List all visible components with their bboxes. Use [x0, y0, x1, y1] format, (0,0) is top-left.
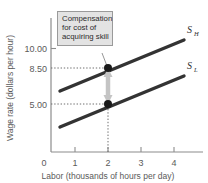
y-tick-label-850: 8.50 [29, 64, 47, 74]
x-axis-title: Labor (thousands of hours per day) [42, 171, 175, 181]
compensation-callout-text: Compensation for cost of acquiring skill [62, 14, 109, 42]
point-low-skilled-equilibrium [104, 100, 112, 108]
x-tick-label-2: 2 [105, 158, 110, 168]
curve-label-low-skilled-text: S [187, 60, 192, 71]
curve-label-high-skilled: S H [187, 24, 199, 37]
x-tick-label-3: 3 [138, 158, 143, 168]
wage-rate-chart: 10.00 8.50 5.00 0 1 2 3 4 Labor (thousan… [0, 0, 208, 183]
x-tick-label-1: 1 [72, 158, 77, 168]
y-tick-label-500: 5.00 [29, 100, 47, 110]
curve-label-low-skilled-subscript: L [193, 66, 198, 73]
y-axis-title: Wage rate (dollars per hour) [5, 35, 15, 141]
compensation-callout-box: Compensation for cost of acquiring skill [57, 11, 113, 46]
curve-label-low-skilled: S L [187, 60, 198, 73]
x-tick-label-4: 4 [171, 158, 176, 168]
point-high-skilled-equilibrium [104, 64, 112, 72]
callout-pointer-line [102, 53, 107, 66]
x-tick-label-0: 0 [41, 158, 46, 168]
y-tick-label-10: 10.00 [24, 44, 47, 54]
curve-label-high-skilled-text: S [187, 24, 192, 35]
curve-label-high-skilled-subscript: H [193, 30, 199, 37]
